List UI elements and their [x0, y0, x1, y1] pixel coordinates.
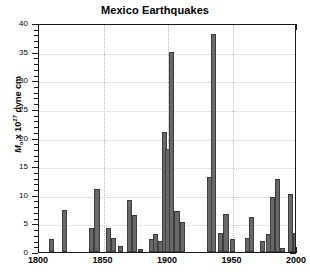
y-axis-tick-label: 35: [2, 49, 28, 57]
y-axis-tick-label: 5: [2, 220, 28, 228]
y-axis-tick-label: 20: [2, 135, 28, 143]
x-axis-tick: [296, 247, 297, 253]
bar: [132, 215, 137, 252]
x-axis-tick-label: 1950: [212, 256, 252, 265]
bar: [223, 214, 228, 252]
y-axis-tick-label: 30: [2, 77, 28, 85]
y-axis-tick-label: 40: [2, 20, 28, 28]
bar: [62, 210, 67, 252]
bar: [49, 239, 54, 252]
plot-area: [38, 24, 296, 253]
gridline-vertical: [104, 25, 105, 252]
bar: [230, 239, 235, 252]
y-axis-symbol: M: [13, 145, 23, 153]
y-axis-tick-right: [290, 253, 296, 254]
x-axis-tick-label: 1800: [18, 256, 58, 265]
y-axis-tick-label: 15: [2, 163, 28, 171]
gridline-horizontal: [39, 82, 295, 83]
x-axis-tick-label: 2000: [276, 256, 310, 265]
bar: [293, 233, 296, 252]
bar: [249, 217, 254, 252]
chart-title: Mexico Earthquakes: [0, 4, 310, 16]
x-axis-tick-label: 1900: [147, 256, 187, 265]
bar: [138, 249, 143, 252]
bar: [211, 34, 216, 252]
bar: [118, 246, 123, 252]
gridline-horizontal: [39, 111, 295, 112]
y-axis-tick: [32, 253, 38, 254]
x-axis-tick-label: 1850: [83, 256, 123, 265]
chart-figure: Mexico Earthquakes Mo x 1027 dyne cm 051…: [0, 0, 310, 279]
bar: [260, 241, 265, 252]
y-axis-tick-label: 25: [2, 106, 28, 114]
y-axis-tick-label: 10: [2, 192, 28, 200]
bar: [94, 189, 99, 252]
gridline-vertical: [233, 25, 234, 252]
gridline-horizontal: [39, 54, 295, 55]
bar: [111, 238, 116, 252]
bar: [280, 248, 285, 252]
x-axis-tick-top: [296, 24, 297, 30]
bar: [275, 179, 280, 252]
gridline-horizontal: [39, 140, 295, 141]
bar: [180, 222, 185, 252]
y-axis-exponent: 27: [12, 115, 18, 122]
